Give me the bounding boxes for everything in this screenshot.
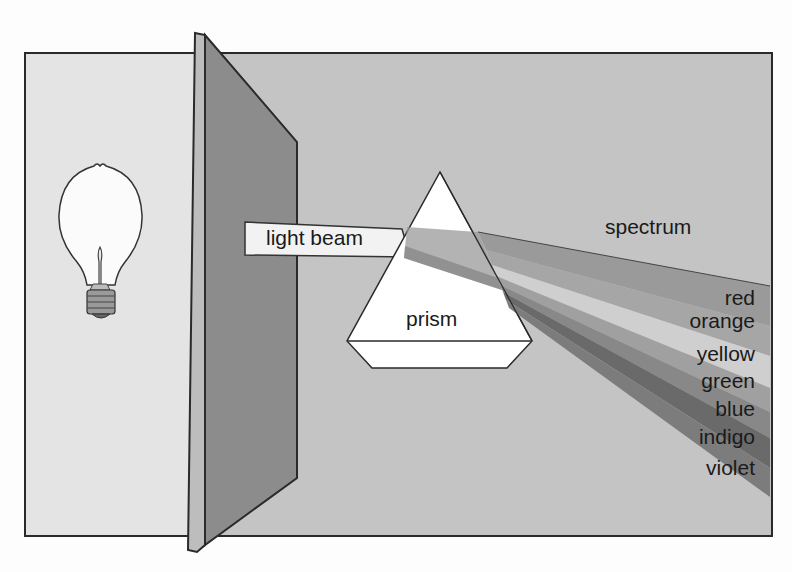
prism-diagram: light beam prism spectrum red orange yel…: [0, 0, 792, 572]
diagram-canvas: light beam prism spectrum red orange yel…: [0, 0, 792, 572]
label-green: green: [701, 369, 755, 392]
label-spectrum: spectrum: [605, 215, 691, 238]
label-orange: orange: [690, 309, 755, 332]
label-prism: prism: [406, 307, 457, 330]
label-yellow: yellow: [697, 342, 756, 365]
label-red: red: [725, 286, 755, 309]
label-light-beam: light beam: [266, 226, 363, 249]
label-indigo: indigo: [699, 425, 755, 448]
label-blue: blue: [715, 397, 755, 420]
label-violet: violet: [706, 456, 755, 479]
